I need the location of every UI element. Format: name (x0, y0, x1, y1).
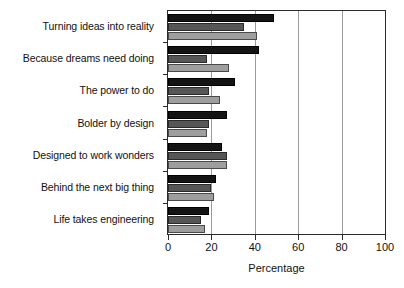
x-axis-tick-label: 100 (365, 241, 404, 253)
bar (168, 143, 222, 151)
category-label: Designed to work wonders (0, 149, 154, 161)
y-axis-tick (163, 74, 168, 75)
x-axis-tick-label: 80 (322, 241, 362, 253)
x-axis-tick-label: 60 (278, 241, 318, 253)
category-label: Because dreams need doing (0, 52, 154, 64)
category-label: Bolder by design (0, 117, 154, 129)
bottom-edge-artifact (0, 282, 404, 288)
bar-group (168, 78, 385, 104)
bar (168, 23, 244, 31)
bar (168, 32, 257, 40)
bar (168, 129, 207, 137)
x-axis-tick-0 (168, 235, 169, 240)
bar (168, 184, 211, 192)
x-axis-tick-label: 20 (191, 241, 231, 253)
bar-group (168, 14, 385, 40)
bar-group (168, 175, 385, 201)
category-label: Life takes engineering (0, 213, 154, 225)
bar (168, 111, 227, 119)
plot-area (167, 10, 386, 235)
y-axis-tick (163, 203, 168, 204)
y-axis-tick (163, 42, 168, 43)
bar (168, 175, 216, 183)
bar (168, 216, 201, 224)
x-axis-tick-label: 0 (148, 241, 188, 253)
bar-group (168, 46, 385, 72)
horizontal-bar-chart: Turning ideas into realityBecause dreams… (0, 0, 404, 288)
bar (168, 193, 214, 201)
x-axis-tick-100 (385, 235, 386, 240)
x-axis-tick-label: 40 (235, 241, 275, 253)
x-axis-tick-40 (255, 235, 256, 240)
bar (168, 161, 227, 169)
x-axis-tick-60 (298, 235, 299, 240)
x-axis-tick-80 (342, 235, 343, 240)
bar (168, 87, 209, 95)
y-axis-tick (163, 171, 168, 172)
bar-group (168, 143, 385, 169)
category-label: Behind the next big thing (0, 181, 154, 193)
y-axis-tick (163, 106, 168, 107)
bar (168, 207, 209, 215)
bar (168, 152, 227, 160)
x-axis-tick-20 (211, 235, 212, 240)
y-axis-tick (163, 139, 168, 140)
bar (168, 64, 229, 72)
bar (168, 46, 259, 54)
category-label: The power to do (0, 84, 154, 96)
bar-group (168, 207, 385, 233)
category-label: Turning ideas into reality (0, 20, 154, 32)
bar (168, 55, 207, 63)
bar (168, 96, 220, 104)
bar-group (168, 111, 385, 137)
category-axis-labels: Turning ideas into realityBecause dreams… (0, 10, 160, 235)
bar (168, 78, 235, 86)
x-axis-title: Percentage (167, 262, 386, 274)
bar (168, 14, 274, 22)
bar (168, 120, 209, 128)
bar (168, 225, 205, 233)
